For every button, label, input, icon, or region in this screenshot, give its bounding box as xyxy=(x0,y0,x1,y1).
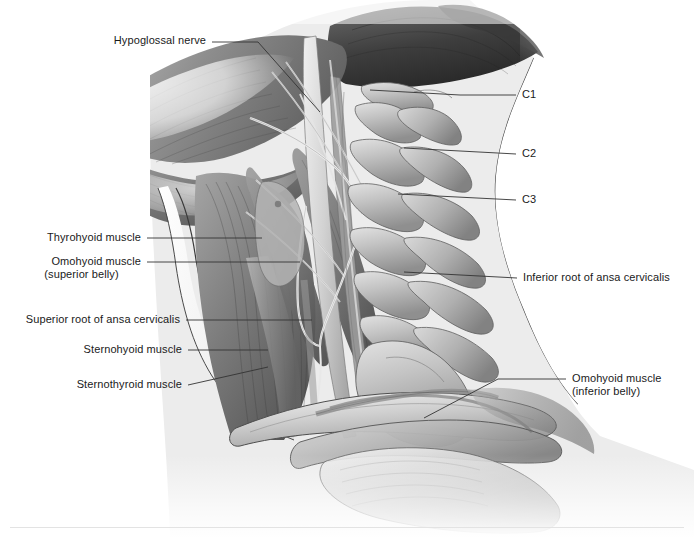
label-superior-root-ansa-cervicalis: Superior root of ansa cervicalis xyxy=(0,313,180,326)
label-omohyoid-muscle-inferior: Omohyoid muscle xyxy=(572,372,662,385)
label-thyrohyoid-muscle: Thyrohyoid muscle xyxy=(0,231,141,244)
label-inferior-root-ansa-cervicalis: Inferior root of ansa cervicalis xyxy=(523,271,670,284)
label-sternohyoid-muscle: Sternohyoid muscle xyxy=(0,343,182,356)
label-omohyoid-muscle-inferior-belly: (inferior belly) xyxy=(572,385,640,398)
label-omohyoid-muscle-superior: Omohyoid muscle xyxy=(0,255,141,268)
footer-rule xyxy=(10,527,684,528)
label-hypoglossal-nerve: Hypoglossal nerve xyxy=(6,34,206,47)
label-c2: C2 xyxy=(522,147,536,160)
label-sternothyroid-muscle: Sternothyroid muscle xyxy=(0,378,182,391)
label-c3: C3 xyxy=(522,193,536,206)
label-c1: C1 xyxy=(522,88,536,101)
label-omohyoid-muscle-superior-belly: (superior belly) xyxy=(0,268,163,281)
